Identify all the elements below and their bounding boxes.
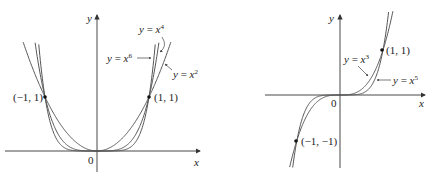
point-label-1-1: (1, 1) [386,44,410,57]
x-axis-label: x [193,156,199,168]
point-1-1 [147,95,151,99]
pointer-x4 [160,37,165,52]
label-x4: y = x4 [138,23,165,35]
origin-label: 0 [88,154,94,166]
label-x2: y = x2 [172,68,199,80]
point-label-1-1: (1, 1) [154,91,178,104]
label-x5: y = x5 [392,74,419,86]
y-axis-label: y [86,12,92,24]
y-axis-label: y [328,12,334,24]
right-plot: x y 0 (1, 1) (−1, −1) y = x3 y = x5 [265,11,425,168]
point-neg1-neg1 [294,139,298,143]
point-neg1-1 [43,95,47,99]
figure: x y 0 (−1, 1) (1, 1) y = x4 y = x6 y = x… [0,0,432,175]
origin-label: 0 [331,97,337,109]
point-label-neg1-neg1: (−1, −1) [301,135,338,148]
label-x3: y = x3 [343,53,370,65]
pointer-x2 [165,64,172,70]
point-1-1 [380,48,384,52]
x-axis-label: x [418,97,424,109]
label-x6: y = x6 [106,52,133,64]
point-label-neg1-1: (−1, 1) [13,91,43,104]
left-plot: x y 0 (−1, 1) (1, 1) y = x4 y = x6 y = x… [5,12,200,172]
pointer-x3 [358,66,368,76]
